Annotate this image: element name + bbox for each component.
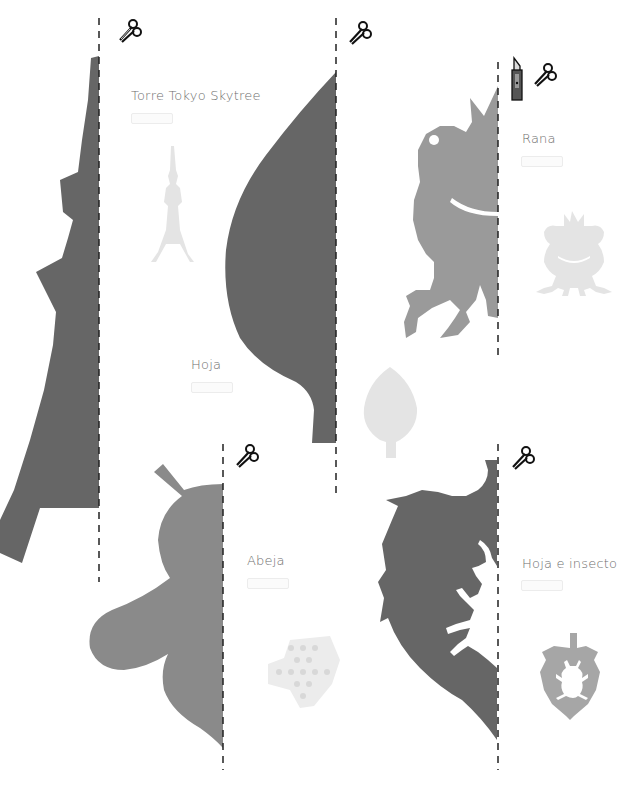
template-badge-frog xyxy=(521,156,563,167)
bee-preview-icon xyxy=(268,636,340,708)
frog-preview-icon xyxy=(536,211,612,296)
leaf-insect-half-shape xyxy=(378,460,497,740)
frog-half-shape xyxy=(404,86,498,338)
template-title-frog: Rana xyxy=(522,131,556,146)
template-title-bee: Abeja xyxy=(247,553,285,568)
template-badge-leaf xyxy=(191,382,233,393)
scissors-icon xyxy=(510,445,536,471)
leaf-preview-icon xyxy=(364,367,417,458)
scissors-icon xyxy=(234,443,260,469)
leaf-insect-preview-icon xyxy=(540,633,600,720)
template-title-leaf: Hoja xyxy=(191,357,221,372)
template-badge-bee xyxy=(247,578,289,589)
skytree-preview-icon xyxy=(151,146,194,262)
scissors-icon xyxy=(532,62,558,88)
template-title-skytree: Torre Tokyo Skytree xyxy=(131,88,261,103)
bee-half-shape xyxy=(89,464,223,748)
template-badge-leaf-insect xyxy=(521,580,563,591)
scissors-icon xyxy=(117,18,143,44)
template-title-leaf-insect: Hoja e insecto xyxy=(522,556,617,571)
skytree-half-shape xyxy=(0,56,99,563)
scissors-icon xyxy=(347,20,373,46)
template-badge-skytree xyxy=(131,113,173,124)
leaf-half-shape xyxy=(225,72,336,443)
cutter-knife-icon xyxy=(510,56,524,102)
template-shapes xyxy=(0,0,627,797)
papercraft-template-sheet: Torre Tokyo Skytree Hoja Rana Abeja Hoja… xyxy=(0,0,627,797)
